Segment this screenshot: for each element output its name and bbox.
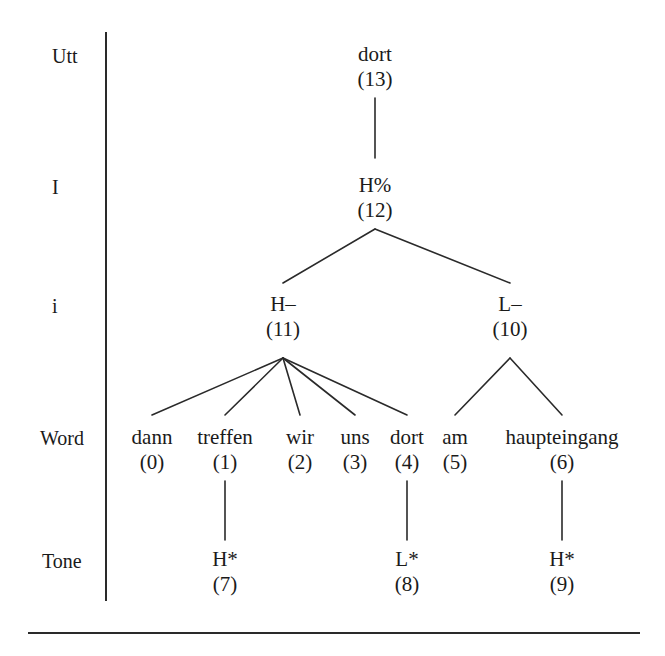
node-label-n10: L– — [493, 292, 528, 317]
tier-label-word: Word — [40, 428, 84, 448]
tree-node-n11: H–(11) — [266, 292, 300, 342]
node-index-n11: (11) — [266, 317, 300, 342]
node-index-n13: (13) — [358, 67, 393, 92]
node-index-n10: (10) — [493, 317, 528, 342]
tier-label-tone: Tone — [42, 551, 82, 571]
tier-label-i: i — [52, 296, 58, 316]
node-label-w3: uns — [340, 425, 369, 450]
node-label-n13: dort — [358, 42, 393, 67]
tree-node-n10: L–(10) — [493, 292, 528, 342]
node-index-w4: (4) — [390, 450, 424, 475]
node-label-t7: H* — [212, 547, 238, 572]
branch-n12-to-n10 — [375, 229, 510, 283]
node-label-w6: haupteingang — [505, 425, 618, 450]
node-index-w0: (0) — [132, 450, 173, 475]
tree-node-w5: am(5) — [442, 425, 468, 475]
prosodic-tree-figure: UttIiWordTone dort(13)H%(12)H–(11)L–(10)… — [0, 0, 665, 656]
branch-n11-to-w2 — [283, 358, 300, 415]
node-index-t9: (9) — [549, 572, 575, 597]
branch-n12-to-n11 — [283, 229, 375, 283]
tree-node-t8: L*(8) — [395, 547, 420, 597]
figure-baseline-rule — [28, 632, 640, 634]
branch-n11-to-w4 — [283, 358, 407, 415]
tree-node-w4: dort(4) — [390, 425, 424, 475]
node-index-w6: (6) — [505, 450, 618, 475]
node-index-w3: (3) — [340, 450, 369, 475]
tree-node-w3: uns(3) — [340, 425, 369, 475]
branch-n11-to-w0 — [152, 358, 283, 415]
node-index-t7: (7) — [212, 572, 238, 597]
node-label-n11: H– — [266, 292, 300, 317]
node-index-w5: (5) — [442, 450, 468, 475]
tier-divider-line — [105, 32, 107, 601]
node-label-w1: treffen — [197, 425, 253, 450]
tree-node-n13: dort(13) — [358, 42, 393, 92]
tree-node-w0: dann(0) — [132, 425, 173, 475]
node-index-t8: (8) — [395, 572, 420, 597]
tree-node-t7: H*(7) — [212, 547, 238, 597]
tier-label-i: I — [52, 177, 59, 197]
tier-label-utt: Utt — [52, 46, 78, 66]
node-label-w4: dort — [390, 425, 424, 450]
branch-n11-to-w3 — [283, 358, 355, 415]
node-index-w1: (1) — [197, 450, 253, 475]
tree-node-w1: treffen(1) — [197, 425, 253, 475]
branch-n11-to-w1 — [225, 358, 283, 415]
branch-n10-to-w6 — [510, 358, 562, 415]
tree-node-w6: haupteingang(6) — [505, 425, 618, 475]
node-index-n12: (12) — [358, 198, 393, 223]
node-label-w0: dann — [132, 425, 173, 450]
node-label-t8: L* — [395, 547, 420, 572]
node-label-n12: H% — [358, 173, 393, 198]
node-index-w2: (2) — [286, 450, 314, 475]
node-label-t9: H* — [549, 547, 575, 572]
branch-n10-to-w5 — [455, 358, 510, 415]
tree-node-t9: H*(9) — [549, 547, 575, 597]
tree-node-n12: H%(12) — [358, 173, 393, 223]
node-label-w2: wir — [286, 425, 314, 450]
tree-node-w2: wir(2) — [286, 425, 314, 475]
node-label-w5: am — [442, 425, 468, 450]
